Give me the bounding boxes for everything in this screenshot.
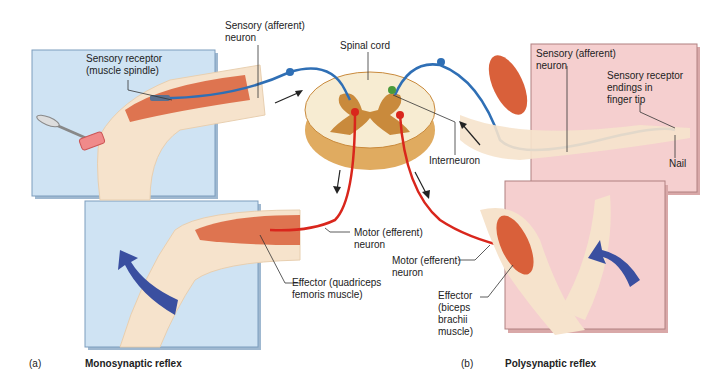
arm-muscle-b-top [481, 50, 535, 121]
caption-title-a: Monosynaptic reflex [85, 358, 182, 369]
sensory-ganglion-b [437, 58, 445, 66]
motor-cell-body-a [351, 108, 359, 116]
caption-letter-b: (b) [461, 358, 473, 369]
label-effector-a: Effector (quadriceps femoris muscle) [292, 277, 381, 301]
label-sensory-neuron-a: Sensory (afferent) neuron [225, 20, 305, 44]
label-interneuron: Interneuron [429, 155, 480, 167]
label-sensory-receptor-b: Sensory receptor endings in finger tip [607, 70, 683, 106]
sensory-ganglion-a [286, 68, 294, 76]
label-sensory-receptor-a: Sensory receptor (muscle spindle) [86, 53, 162, 77]
spinal-cord-top [305, 72, 435, 148]
label-spinal-cord: Spinal cord [340, 40, 390, 52]
label-sensory-neuron-b: Sensory (afferent) neuron [536, 48, 616, 72]
label-motor-neuron-b: Motor (efferent) neuron [392, 255, 461, 279]
interneuron-cell-body [388, 86, 396, 94]
leader-motor-b [458, 245, 490, 260]
label-nail: Nail [669, 158, 686, 170]
caption-title-b: Polysynaptic reflex [505, 358, 596, 369]
afferent-direction-arrow-a [275, 92, 300, 103]
label-motor-neuron-a: Motor (efferent) neuron [354, 227, 423, 251]
caption-letter-a: (a) [29, 358, 41, 369]
label-effector-b: Effector (biceps brachii muscle) [438, 290, 473, 338]
motor-cell-body-b [396, 111, 404, 119]
leader-motor-a [325, 228, 350, 232]
